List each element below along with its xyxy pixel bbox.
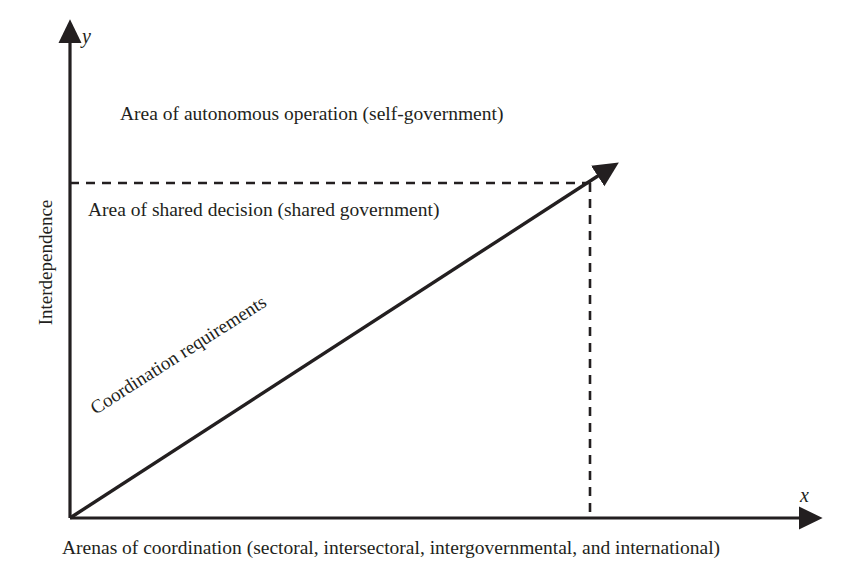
region-label-autonomous-operation: Area of autonomous operation (self-gover…	[120, 104, 503, 124]
x-axis-caption: Arenas of coordination (sectoral, inters…	[62, 538, 720, 558]
x-axis-variable-label: x	[800, 485, 809, 505]
y-axis-variable-label: y	[82, 26, 91, 46]
region-label-shared-decision: Area of shared decision (shared governme…	[88, 200, 439, 220]
y-axis-title: Interdependence	[36, 173, 55, 353]
interdependence-coordination-diagram: Area of autonomous operation (self-gover…	[0, 0, 854, 579]
diagram-canvas	[0, 0, 854, 579]
coordination-trend-arrow	[70, 172, 604, 518]
